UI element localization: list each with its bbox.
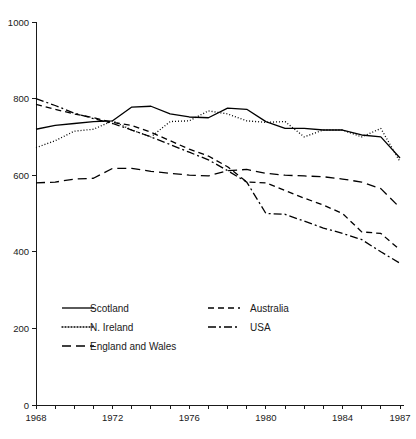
legend-label-australia: Australia [250,303,289,314]
x-tick-label: 1980 [255,412,276,423]
legend-label-usa: USA [250,322,271,333]
series-line-usa [36,99,400,264]
y-tick-label: 1000 [8,17,29,28]
x-tick-label: 1976 [179,412,200,423]
series-line-australia [36,104,400,250]
y-tick-label: 600 [13,170,29,181]
series-lines [36,99,400,264]
series-line-scotland [36,106,400,158]
y-tick-label: 200 [13,323,29,334]
y-axis: 02004006008001000 [8,17,36,411]
x-tick-label: 1968 [25,412,46,423]
legend-label-england-and-wales: England and Wales [90,341,176,352]
series-line-england-and-wales [36,168,400,207]
y-tick-label: 400 [13,246,29,257]
x-tick-label: 1972 [102,412,123,423]
y-tick-label: 0 [24,400,29,411]
series-line-n-ireland [36,111,400,162]
y-tick-label: 800 [13,93,29,104]
x-axis: 196819721976198019841987 [25,405,410,423]
x-tick-label: 1984 [332,412,353,423]
chart-legend: ScotlandN. IrelandEngland and WalesAustr… [62,303,289,352]
line-chart: 02004006008001000 1968197219761980198419… [0,0,416,439]
chart-plot-area: 02004006008001000 1968197219761980198419… [0,0,416,439]
x-tick-label: 1987 [389,412,410,423]
legend-label-n-ireland: N. Ireland [90,322,133,333]
legend-label-scotland: Scotland [90,303,129,314]
